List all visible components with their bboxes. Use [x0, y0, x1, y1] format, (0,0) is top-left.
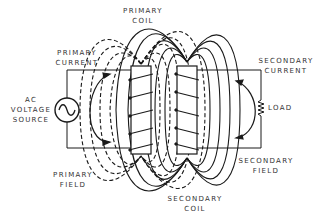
secondary-field-label: SECONDARY FIELD: [235, 156, 297, 176]
resistor-icon: [258, 100, 264, 116]
primary-field-label-line2: FIELD: [50, 180, 96, 190]
secondary-field-label-line1: SECONDARY: [235, 156, 297, 166]
primary-current-label-line1: PRIMARY: [52, 48, 102, 58]
primary-coil: [129, 66, 153, 154]
ac-source-label-line3: SOURCE: [8, 115, 54, 125]
ac-source-label-line2: VOLTAGE: [8, 105, 54, 115]
primary-coil-label: PRIMARY COIL: [118, 6, 168, 26]
primary-field-label-line1: PRIMARY: [50, 170, 96, 180]
secondary-current-label-line2: CURRENT: [255, 66, 317, 76]
primary-current-label-line2: CURRENT: [52, 58, 102, 68]
primary-field-label: PRIMARY FIELD: [50, 170, 96, 190]
load-label: LOAD: [268, 103, 298, 113]
ac-source-label: AC VOLTAGE SOURCE: [8, 95, 54, 125]
secondary-coil-label-line1: SECONDARY: [164, 194, 226, 204]
secondary-field-label-line2: FIELD: [235, 166, 297, 176]
secondary-coil: [175, 66, 199, 154]
ac-source-label-line1: AC: [8, 95, 54, 105]
primary-coil-label-line1: PRIMARY: [118, 6, 168, 16]
primary-coil-label-line2: COIL: [118, 16, 168, 26]
primary-current-label: PRIMARY CURRENT: [52, 48, 102, 68]
secondary-coil-label: SECONDARY COIL: [164, 194, 226, 214]
secondary-current-label: SECONDARY CURRENT: [255, 56, 317, 76]
secondary-current-label-line1: SECONDARY: [255, 56, 317, 66]
sine-wave-icon: [55, 98, 79, 122]
load-label-text: LOAD: [268, 103, 298, 113]
secondary-coil-label-line2: COIL: [164, 204, 226, 214]
